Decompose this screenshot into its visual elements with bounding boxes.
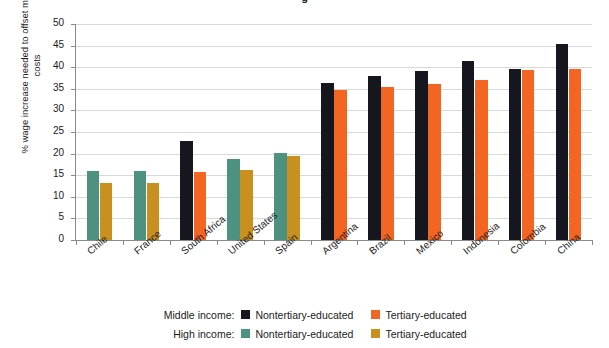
chart-title-fragment: g bbox=[0, 0, 609, 3]
bar-group bbox=[556, 24, 582, 240]
legend-item-middle-nontertiary: Nontertiary-educated bbox=[241, 309, 353, 321]
bar bbox=[227, 159, 240, 240]
bar-group bbox=[321, 24, 347, 240]
y-axis-tick-label: 0 bbox=[38, 233, 64, 244]
bar-chart: g % wage increase needed to offset movin… bbox=[0, 0, 609, 348]
legend-label-middle-nontertiary: Nontertiary-educated bbox=[255, 309, 353, 321]
plot-area bbox=[75, 24, 592, 240]
legend-item-high-tertiary: Tertiary-educated bbox=[371, 328, 466, 340]
y-axis-tick bbox=[71, 67, 76, 68]
bar bbox=[509, 69, 522, 240]
y-axis-tick bbox=[71, 218, 76, 219]
y-axis-tick bbox=[71, 175, 76, 176]
x-axis-tick bbox=[545, 240, 546, 245]
legend-row-high-income: High income: Nontertiary-educated Tertia… bbox=[0, 324, 609, 343]
y-axis-tick bbox=[71, 154, 76, 155]
chart-legend: Middle income: Nontertiary-educated Tert… bbox=[0, 305, 609, 343]
legend-label-high-tertiary: Tertiary-educated bbox=[385, 328, 466, 340]
y-axis-tick-label: 40 bbox=[38, 60, 64, 71]
bar bbox=[287, 156, 300, 240]
x-axis-tick bbox=[217, 240, 218, 245]
legend-group-label-high: High income: bbox=[142, 328, 241, 340]
bar-group bbox=[227, 24, 253, 240]
bar-group bbox=[180, 24, 206, 240]
y-axis-tick-label: 10 bbox=[38, 190, 64, 201]
bar bbox=[475, 80, 488, 240]
legend-swatch-middle-tertiary bbox=[371, 310, 380, 319]
y-axis-tick bbox=[71, 132, 76, 133]
bar-group bbox=[87, 24, 113, 240]
legend-item-middle-tertiary: Tertiary-educated bbox=[371, 309, 466, 321]
x-axis-tick bbox=[264, 240, 265, 245]
bar-group bbox=[415, 24, 441, 240]
legend-swatch-high-nontertiary bbox=[241, 329, 250, 338]
y-axis-tick bbox=[71, 197, 76, 198]
bar bbox=[428, 84, 441, 240]
bar bbox=[368, 76, 381, 240]
bar bbox=[569, 69, 582, 240]
legend-group-label-middle: Middle income: bbox=[142, 309, 241, 321]
bar bbox=[556, 44, 569, 240]
y-axis-tick-label: 15 bbox=[38, 168, 64, 179]
legend-swatch-high-tertiary bbox=[371, 329, 380, 338]
x-axis-tick bbox=[498, 240, 499, 245]
y-axis-tick-label: 45 bbox=[38, 39, 64, 50]
bar bbox=[415, 71, 428, 240]
legend-row-middle-income: Middle income: Nontertiary-educated Tert… bbox=[0, 305, 609, 324]
bar bbox=[522, 70, 535, 240]
x-axis-tick bbox=[123, 240, 124, 245]
x-axis-tick bbox=[451, 240, 452, 245]
x-axis-tick bbox=[170, 240, 171, 245]
x-axis-tick bbox=[76, 240, 77, 245]
bar-group bbox=[134, 24, 160, 240]
y-axis-tick bbox=[71, 110, 76, 111]
y-axis-tick-label: 30 bbox=[38, 103, 64, 114]
y-axis-tick bbox=[71, 89, 76, 90]
bar bbox=[321, 83, 334, 240]
legend-item-high-nontertiary: Nontertiary-educated bbox=[241, 328, 353, 340]
legend-label-high-nontertiary: Nontertiary-educated bbox=[255, 328, 353, 340]
bar bbox=[381, 87, 394, 240]
bar-group bbox=[274, 24, 300, 240]
legend-label-middle-tertiary: Tertiary-educated bbox=[385, 309, 466, 321]
bar bbox=[100, 183, 113, 240]
y-axis-tick bbox=[71, 24, 76, 25]
y-axis-tick-label: 50 bbox=[38, 17, 64, 28]
bar bbox=[334, 90, 347, 240]
x-axis-tick bbox=[357, 240, 358, 245]
x-axis-tick bbox=[592, 240, 593, 245]
bar bbox=[274, 153, 287, 240]
x-axis-tick bbox=[311, 240, 312, 245]
y-axis-tick bbox=[71, 46, 76, 47]
bar-group bbox=[368, 24, 394, 240]
y-axis-tick-label: 25 bbox=[38, 125, 64, 136]
y-axis-tick-label: 35 bbox=[38, 82, 64, 93]
bar bbox=[462, 61, 475, 240]
y-axis-tick-label: 20 bbox=[38, 147, 64, 158]
bar-group bbox=[462, 24, 488, 240]
x-axis-tick bbox=[404, 240, 405, 245]
bar bbox=[87, 171, 100, 240]
y-axis-tick-label: 5 bbox=[38, 211, 64, 222]
bar bbox=[134, 171, 147, 240]
bar bbox=[180, 141, 193, 240]
bar-group bbox=[509, 24, 535, 240]
legend-swatch-middle-nontertiary bbox=[241, 310, 250, 319]
